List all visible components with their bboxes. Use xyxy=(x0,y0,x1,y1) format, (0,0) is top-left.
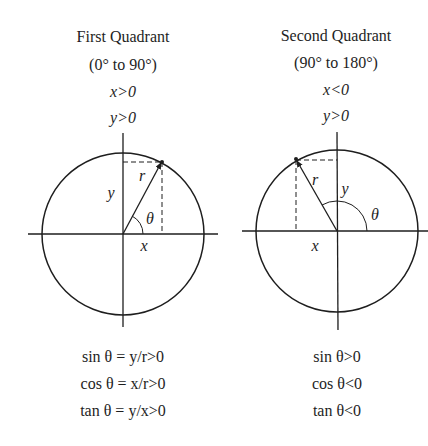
panel2-sin-equation: sin θ>0 xyxy=(237,346,428,368)
panel2-tan-equation: tan θ<0 xyxy=(237,400,428,422)
panel1-sin-equation: sin θ = y/r>0 xyxy=(23,346,223,368)
panel1-diagram xyxy=(28,133,218,327)
panel2-y-axis xyxy=(337,132,338,330)
panel1-point xyxy=(160,160,164,164)
panel2-label-x: x xyxy=(309,236,321,256)
panel2-diagram xyxy=(242,132,428,330)
panel2-label-y: y xyxy=(339,179,351,199)
panel2-label-r: r xyxy=(309,170,321,190)
panel1-label-theta: θ xyxy=(144,209,156,229)
panel2-label-theta: θ xyxy=(369,205,381,225)
panel1-cos-equation: cos θ = x/r>0 xyxy=(23,373,223,395)
panel1-label-x: x xyxy=(138,236,150,256)
panel1-label-y: y xyxy=(105,183,117,203)
panel1-tan-equation: tan θ = y/x>0 xyxy=(23,400,223,422)
panel2-point xyxy=(294,157,298,161)
panel1-label-r: r xyxy=(136,166,148,186)
panel2-cos-equation: cos θ<0 xyxy=(237,373,428,395)
panel1-angle-arc xyxy=(132,216,143,234)
